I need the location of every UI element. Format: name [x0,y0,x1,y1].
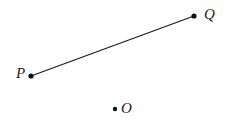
segment-pq [31,16,194,76]
point-q-label: Q [204,7,215,22]
point-p-dot [28,73,33,78]
point-o-dot [113,107,117,111]
geometry-figure: P Q O [0,0,229,128]
geometry-canvas [0,0,229,128]
point-p-label: P [16,66,25,81]
point-q-dot [191,13,196,18]
point-o-label: O [121,101,132,116]
